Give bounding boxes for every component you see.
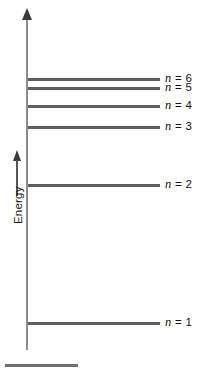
energy-level-label-n4: n = 4 bbox=[165, 98, 192, 113]
energy-level-bar-n5 bbox=[28, 87, 160, 90]
quantum-number-value: = 2 bbox=[175, 178, 192, 190]
quantum-number-symbol: n bbox=[165, 315, 172, 329]
energy-level-label-n1: n = 1 bbox=[165, 315, 192, 330]
energy-level-bar-n2 bbox=[28, 184, 160, 187]
quantum-number-symbol: n bbox=[165, 177, 172, 191]
quantum-number-value: = 3 bbox=[175, 120, 192, 132]
quantum-number-value: = 4 bbox=[175, 99, 192, 111]
energy-level-label-n2: n = 2 bbox=[165, 177, 192, 192]
energy-level-diagram: Energy n = 6n = 5n = 4n = 3n = 2n = 1 bbox=[0, 0, 204, 373]
quantum-number-symbol: n bbox=[165, 98, 172, 112]
energy-level-label-n3: n = 3 bbox=[165, 119, 192, 134]
quantum-number-symbol: n bbox=[165, 80, 172, 94]
energy-axis-arrow-icon bbox=[22, 8, 32, 20]
energy-level-bar-n6 bbox=[28, 78, 160, 81]
energy-level-bar-n3 bbox=[28, 126, 160, 129]
energy-level-bar-n4 bbox=[28, 105, 160, 108]
quantum-number-value: = 1 bbox=[175, 316, 192, 328]
bottom-rule bbox=[5, 364, 78, 367]
energy-level-label-n5: n = 5 bbox=[165, 80, 192, 95]
energy-axis-label: Energy bbox=[12, 164, 24, 224]
energy-level-bar-n1 bbox=[28, 322, 160, 325]
quantum-number-value: = 5 bbox=[175, 81, 192, 93]
quantum-number-symbol: n bbox=[165, 119, 172, 133]
